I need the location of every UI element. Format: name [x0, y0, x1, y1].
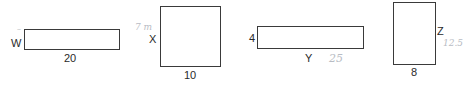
handwritten-mark-w: ~: [17, 26, 21, 33]
rectangle-10-by-x: [160, 6, 221, 67]
rectangle-y-by-4: [257, 26, 364, 49]
width-label-20: 20: [64, 53, 76, 64]
width-label-10: 10: [184, 70, 196, 81]
height-label-z: Z: [437, 26, 444, 37]
height-label-w: W: [11, 38, 21, 49]
rectangle-8-by-z: [393, 2, 436, 65]
width-label-y: Y: [305, 53, 312, 64]
handwritten-note-25: 25: [329, 54, 343, 63]
rectangle-20-by-w: [24, 29, 120, 50]
width-label-8: 8: [411, 67, 417, 78]
handwritten-note-x: 7 m: [135, 23, 152, 32]
handwritten-note-12-5: 12.5: [443, 39, 463, 48]
height-label-x: X: [149, 34, 156, 45]
height-label-4: 4: [249, 33, 255, 44]
